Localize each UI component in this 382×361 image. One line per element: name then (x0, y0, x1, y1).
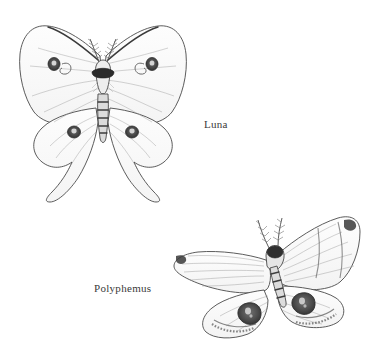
luna-right-hindwing (108, 108, 172, 202)
polyphemus-label: Polyphemus (94, 282, 151, 294)
polyphemus-hindwing-eyespot-right (292, 293, 315, 315)
polyphemus-left-forewing (174, 251, 271, 292)
luna-collar (92, 68, 114, 78)
polyphemus-wings (174, 217, 360, 338)
luna-hindwing-eyespot-right (126, 126, 139, 138)
polyphemus-moth-illustration (168, 206, 374, 351)
luna-label: Luna (204, 118, 228, 130)
polyphemus-antennae (256, 218, 285, 248)
polyphemus-hindwing-eyespot-left (238, 303, 261, 325)
polyphemus-left-apex-spot (176, 255, 186, 264)
luna-moth-illustration (8, 12, 198, 204)
luna-hindwing-eyespot-left (68, 126, 81, 138)
illustration-page: Luna Polyphemus (0, 0, 382, 361)
luna-left-hindwing (34, 108, 98, 202)
